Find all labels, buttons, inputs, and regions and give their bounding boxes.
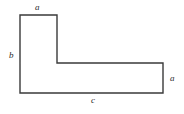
- figure-container: a b a c: [0, 0, 184, 114]
- edge-label-top-a: a: [35, 3, 40, 12]
- edge-label-right-a: a: [170, 74, 175, 83]
- edge-label-bottom-c: c: [91, 96, 95, 105]
- l-shape-outline: [20, 15, 163, 93]
- edge-label-left-b: b: [9, 51, 14, 60]
